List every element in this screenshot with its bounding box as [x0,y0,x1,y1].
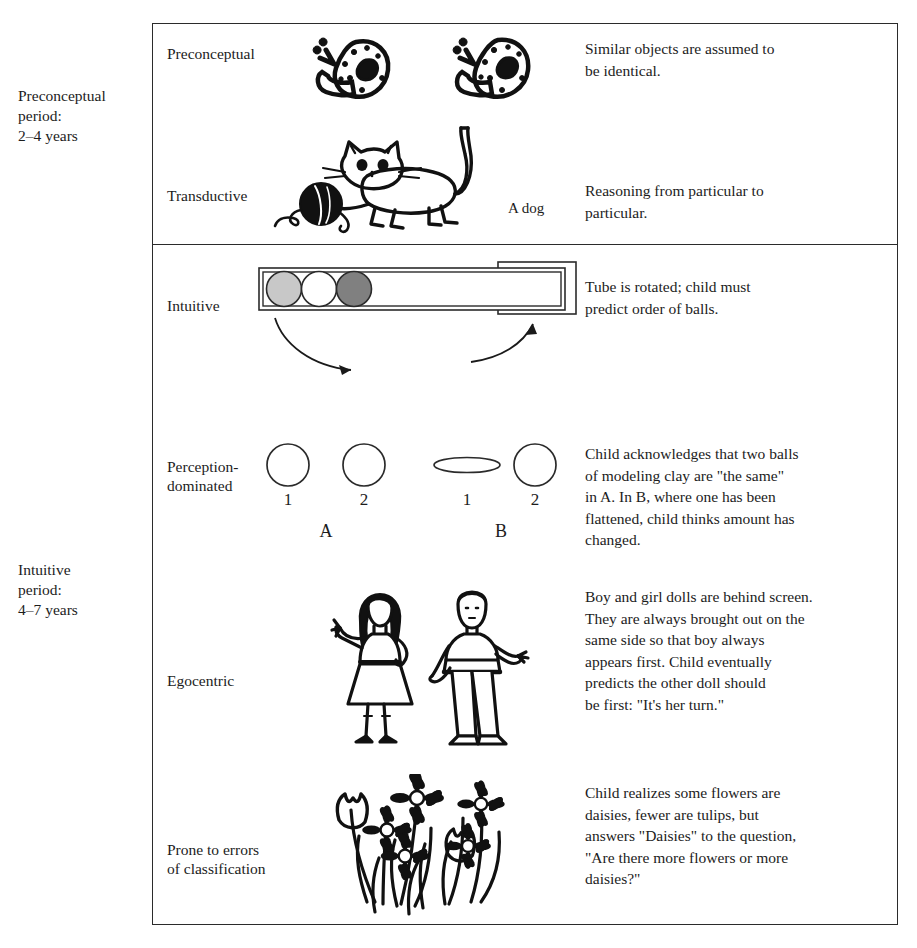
row-description-intuitive: Tube is rotated; child must predict orde… [585,276,885,319]
light-gray-ball [267,272,302,307]
cat-with-yarn-ball-illustration [271,124,571,239]
row-description-egocentric: Boy and girl dolls are behind screen. Th… [585,586,885,715]
rotation-arrow-right [471,324,533,362]
svg-text:2: 2 [360,490,369,509]
row-description-transductive: Reasoning from particular to particular. [585,180,885,223]
clay-flattened-b1 [434,458,500,473]
girl-and-boy-dolls-illustration [328,576,578,756]
row-description-classification: Child realizes some flowers are daisies,… [585,782,885,890]
svg-text:2: 2 [531,490,540,509]
row-description-preconceptual: Similar objects are assumed to be identi… [585,38,885,81]
table-row-preconceptual: Preconceptual [153,24,897,124]
row-label-preconceptual: Preconceptual [167,44,297,63]
daisy [390,774,445,826]
daisies-and-tulips-bouquet-illustration [313,774,563,924]
svg-text:A: A [320,521,333,541]
rotation-arrow-left [275,318,351,370]
svg-text:1: 1 [463,490,472,509]
row-label-egocentric: Egocentric [167,671,297,690]
boy-doll [430,592,528,745]
svg-text:B: B [495,521,507,541]
two-spotted-snails-illustration [308,28,558,108]
white-ball [302,272,337,307]
clay-balls-conservation-illustration: 1 2 1 2 A B [233,441,573,551]
row-label-classification: Prone to errors of classification [167,840,297,878]
stage-table-frame: Preconceptual [152,23,898,925]
table-row-perception-dominated: Perception- dominated 1 2 1 2 A B [153,419,897,574]
dark-gray-ball [337,272,372,307]
clay-ball-a1 [267,444,309,486]
svg-text:1: 1 [284,490,293,509]
period-label-preconceptual: Preconceptual period: 2–4 years [18,86,148,146]
table-row-egocentric: Egocentric [153,574,897,774]
clay-ball-b2 [514,444,556,486]
girl-doll [332,594,412,742]
table-row-classification: Prone to errors of classification [153,774,897,926]
row-description-perception-dominated: Child acknowledges that two balls of mod… [585,443,885,551]
period-label-intuitive: Intuitive period: 4–7 years [18,560,148,620]
clay-ball-a2 [343,444,385,486]
table-row-intuitive: Intuitive Tub [153,244,897,419]
tube-with-three-balls-illustration [253,258,583,388]
a-dog-caption: A dog [508,200,544,217]
table-row-transductive: Transductive [153,124,897,244]
